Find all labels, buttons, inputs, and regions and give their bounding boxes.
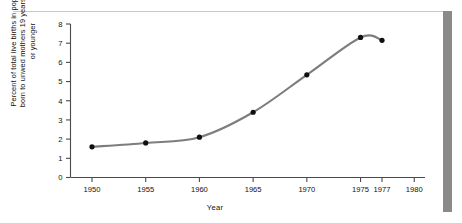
svg-text:1977: 1977 xyxy=(374,185,391,194)
svg-text:5: 5 xyxy=(58,77,62,86)
svg-text:1970: 1970 xyxy=(298,185,315,194)
svg-text:1980: 1980 xyxy=(406,185,423,194)
svg-text:0: 0 xyxy=(58,173,62,182)
series-markers xyxy=(89,35,384,150)
svg-text:7: 7 xyxy=(58,39,62,48)
line-chart-plot: 012345678 195019551960196519701975197719… xyxy=(0,0,462,223)
y-axis-ticks xyxy=(66,24,71,178)
svg-text:6: 6 xyxy=(58,58,62,67)
x-axis-tick-labels: 19501955196019651970197519771980 xyxy=(84,185,423,194)
svg-text:1975: 1975 xyxy=(352,185,369,194)
series-line-unwed-births xyxy=(92,35,382,146)
y-axis-title: Percent of total live births in populati… xyxy=(0,0,46,125)
x-axis-ticks xyxy=(92,178,414,183)
svg-text:1950: 1950 xyxy=(84,185,101,194)
svg-text:1965: 1965 xyxy=(245,185,262,194)
svg-text:4: 4 xyxy=(58,97,62,106)
chart-figure: 012345678 195019551960196519701975197719… xyxy=(0,0,462,223)
svg-text:1955: 1955 xyxy=(137,185,154,194)
svg-text:1: 1 xyxy=(58,154,62,163)
y-axis-tick-labels: 012345678 xyxy=(58,20,62,183)
svg-text:1960: 1960 xyxy=(191,185,208,194)
svg-text:3: 3 xyxy=(58,116,62,125)
x-axis-title: Year xyxy=(0,203,430,212)
svg-text:8: 8 xyxy=(58,20,62,29)
svg-text:2: 2 xyxy=(58,135,62,144)
